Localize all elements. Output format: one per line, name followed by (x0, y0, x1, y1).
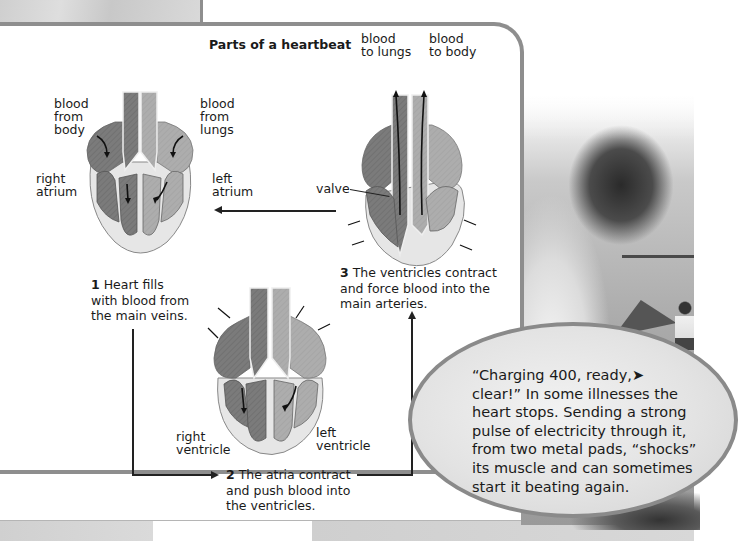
label-blood-to-lungs: blood to lungs (361, 32, 411, 58)
caption-stage2: 2 The atria contract and push blood into… (226, 467, 351, 514)
caption-stage3: 3 The ventricles contract and force bloo… (340, 265, 497, 312)
stage1-number: 1 (91, 277, 100, 292)
flow-line-2-out (357, 474, 412, 476)
flow-arrowhead-to-stage3 (408, 311, 416, 319)
stage3-number: 3 (340, 265, 349, 280)
flow-arrowhead-to-stage2 (211, 471, 219, 479)
label-blood-from-lungs: blood from lungs (200, 97, 235, 136)
stage2-number: 2 (226, 467, 235, 482)
flow-line-3-to-1 (222, 210, 336, 212)
label-blood-from-body: blood from body (54, 97, 89, 136)
heart-diagram-stage3 (352, 95, 472, 270)
label-right-atrium: right atrium (36, 172, 77, 198)
label-left-atrium: left atrium (212, 172, 253, 198)
photo-detail-child (675, 300, 694, 350)
photo-detail-rod (622, 255, 694, 258)
flow-line-1-down (132, 329, 134, 475)
label-blood-to-body: blood to body (429, 32, 476, 58)
flow-arrowhead-to-stage1 (214, 206, 222, 214)
diagram-title: Parts of a heartbeat (209, 37, 351, 52)
photo-fade (521, 60, 694, 140)
label-right-ventricle: right ventricle (176, 430, 231, 456)
label-left-ventricle: left ventricle (316, 426, 371, 452)
heart-diagram-stage1 (75, 92, 205, 262)
label-valve: valve (316, 182, 350, 195)
flow-line-1-to-2 (132, 474, 212, 476)
callout-text: “Charging 400, ready,➤ clear!” In some i… (472, 366, 702, 496)
caption-stage1: 1 Heart fills with blood from the main v… (91, 277, 189, 324)
